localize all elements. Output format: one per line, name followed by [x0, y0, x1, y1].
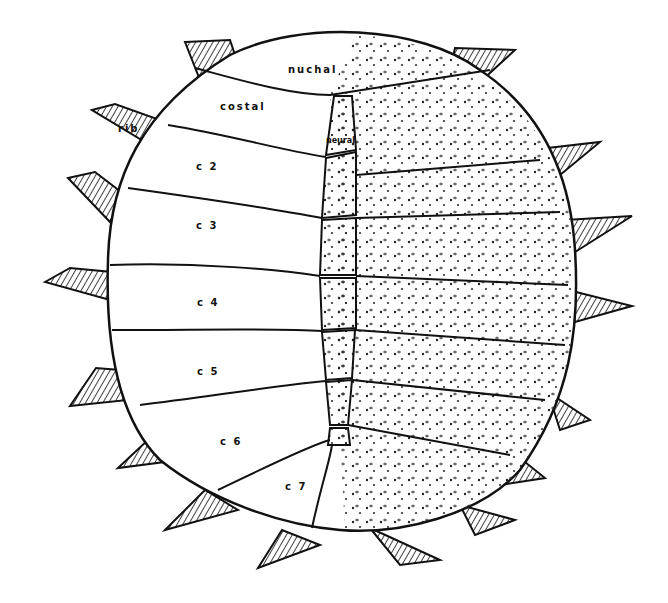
carapace-diagram: nuchal costal neural rib c 2 c 3 c 4 c 5…: [0, 0, 668, 603]
label-neural: neural: [326, 136, 355, 145]
label-c3: c 3: [196, 220, 218, 231]
label-costal: costal: [220, 101, 266, 112]
label-c4: c 4: [197, 297, 219, 308]
label-c6: c 6: [220, 436, 242, 447]
label-c2: c 2: [196, 161, 218, 172]
label-nuchal: nuchal: [288, 64, 337, 75]
label-rib: rib: [118, 123, 140, 134]
label-c5: c 5: [197, 366, 219, 377]
label-c7: c 7: [285, 481, 307, 492]
